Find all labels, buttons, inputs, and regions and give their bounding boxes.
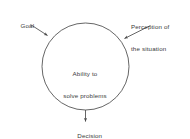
goal-text: Goal bbox=[20, 22, 34, 29]
label-decision: Decision bbox=[56, 125, 116, 139]
label-goal: Goal bbox=[13, 15, 34, 37]
perception-text-line-1: Perception of bbox=[131, 23, 169, 30]
central-node-line-2: solve problems bbox=[45, 92, 125, 99]
label-perception: Perception of the situation bbox=[131, 8, 169, 67]
decision-text: Decision bbox=[77, 132, 102, 139]
perception-text-line-2: the situation bbox=[131, 45, 169, 52]
central-node-line-1: Ability to bbox=[45, 70, 125, 77]
label-central-node: Ability to solve problems bbox=[45, 55, 125, 114]
diagram-canvas: Goal Perception of the situation Ability… bbox=[0, 0, 190, 139]
